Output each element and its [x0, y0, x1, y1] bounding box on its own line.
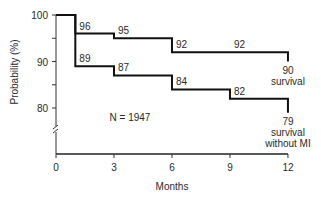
series-end-label: without MI [264, 138, 311, 149]
series-end-label: survival [271, 127, 305, 138]
x-tick-label: 6 [169, 162, 175, 173]
y-tick-label: 90 [37, 57, 49, 68]
data-point-label: 89 [79, 53, 91, 64]
data-point-label: 84 [176, 76, 188, 87]
series-end-label: 79 [282, 116, 294, 127]
data-point-label: 96 [79, 21, 91, 32]
step-line-survival [56, 15, 288, 62]
x-tick-label: 0 [53, 162, 59, 173]
data-point-label: 92 [234, 39, 246, 50]
data-point-label: 87 [118, 62, 130, 73]
kaplan-meier-chart: 8090100036912 9695929290survival89878482… [0, 0, 321, 198]
data-point-label: 95 [118, 25, 130, 36]
labels-group: 9695929290survival8987848279survivalwith… [79, 21, 310, 149]
data-point-label: 82 [234, 86, 246, 97]
y-axis-label: Probability (%) [9, 39, 20, 104]
series-end-label: survival [271, 76, 305, 87]
series-end-label: 90 [282, 65, 294, 76]
x-tick-label: 9 [227, 162, 233, 173]
series-group [56, 15, 288, 113]
x-axis-label: Months [156, 181, 189, 192]
axes: 8090100036912 [31, 10, 294, 173]
step-line-survival-without-mi [56, 15, 288, 113]
x-tick-label: 12 [282, 162, 294, 173]
chart-svg: 8090100036912 9695929290survival89878482… [0, 0, 321, 198]
y-tick-label: 80 [37, 103, 49, 114]
data-point-label: 92 [176, 39, 188, 50]
y-tick-label: 100 [31, 10, 48, 21]
x-tick-label: 3 [111, 162, 117, 173]
sample-size-annotation: N = 1947 [110, 112, 151, 123]
axis-break-icon [53, 125, 58, 133]
